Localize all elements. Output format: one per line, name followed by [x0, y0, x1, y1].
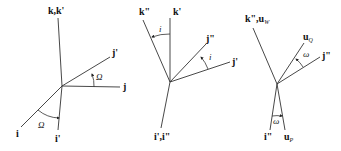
label-i-prime: i': [55, 133, 61, 144]
axis-i-prime: [161, 82, 170, 128]
angle-omega-small-top: ω: [303, 49, 309, 59]
panel-2-rotation-inclination: k" k' j" j' i',i" i i: [139, 6, 238, 142]
angle-i-right: i: [209, 52, 212, 62]
axis-j-prime: [62, 57, 110, 86]
label-i-prime-i-double-prime: i',i": [154, 131, 170, 142]
angle-omega-bottom: Ω: [38, 120, 45, 130]
label-up: uP: [284, 131, 294, 143]
axis-k-double-prime: [143, 20, 170, 82]
label-j-double-prime: j": [205, 33, 215, 44]
label-k-prime: k': [173, 6, 182, 17]
label-uq: uQ: [303, 31, 314, 43]
angle-i-top: i: [159, 24, 162, 34]
label-j-double-prime: j": [321, 50, 331, 61]
label-j-prime: j': [111, 47, 118, 58]
axis-k-double-prime-uw: [253, 28, 277, 84]
axis-k: [58, 18, 62, 86]
label-k-kprime: k,k': [48, 5, 65, 16]
angle-arc-i-top: [152, 34, 170, 37]
panel-1-rotation-omega: k,k' j' j i i' Ω Ω: [16, 5, 126, 144]
angle-arc-omega-small-top: [296, 59, 303, 67]
euler-rotation-diagram: k,k' j' j i i' Ω Ω k" k' j" j' i',i" i i…: [0, 0, 341, 151]
label-k-double-prime: k": [139, 6, 150, 17]
angle-omega-top: Ω: [96, 72, 103, 82]
label-j: j: [122, 81, 126, 92]
axis-uq: [277, 43, 304, 84]
panel-3-rotation-argument-of-periapsis: k",uW uQ j" i" uP ω ω: [245, 13, 331, 143]
axis-j: [62, 86, 120, 87]
angle-omega-small-bottom: ω: [273, 116, 279, 126]
label-k-double-prime-uw: k",uW: [245, 13, 270, 25]
angle-arc-omega-top: [92, 74, 94, 87]
axis-i-prime: [58, 86, 62, 130]
angle-arc-i-right: [201, 57, 208, 69]
label-i-double-prime: i": [264, 131, 272, 142]
angle-arc-omega-bottom: [38, 110, 59, 118]
label-i: i: [16, 128, 19, 139]
label-j-prime: j': [231, 56, 238, 67]
